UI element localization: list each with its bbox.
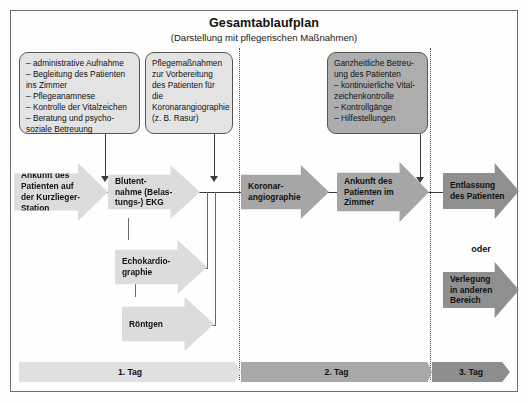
connector-blood-to-echo	[128, 218, 129, 240]
page-title: Gesamtablaufplan	[0, 16, 528, 30]
connector-note2-down	[214, 134, 215, 177]
branch-line-xray	[215, 192, 216, 326]
step-coronary-angiography-label: Koronar- angiographie	[241, 181, 303, 203]
branch-line-echo	[207, 192, 208, 269]
phase-divider-1	[239, 48, 240, 380]
connector-note1-down	[105, 134, 106, 177]
diagram-canvas: Gesamtablaufplan (Darstellung mit pflege…	[0, 0, 528, 403]
connector-note3-down	[420, 134, 421, 178]
step-transfer-label: Verlegung in anderen Bereich	[443, 274, 494, 307]
timeline-day-1-label: 1. Tag	[118, 367, 142, 377]
step-echocardiography-label: Echokardio- graphie	[115, 256, 172, 278]
note-holistic-care: Ganzheitliche Betreu- ung des Patienten …	[327, 52, 428, 134]
timeline-day-2-label: 2. Tag	[324, 367, 348, 377]
arrowhead-note2	[210, 176, 218, 182]
step-arrival-room-label: Ankunft des Patienten im Zimmer	[337, 176, 396, 209]
timeline-day-2: 2. Tag	[241, 362, 432, 382]
timeline-day-3-label: 3. Tag	[459, 367, 483, 377]
step-bloodtest-ekg-label: Blutent- nahme (Belas- tungs-) EKG	[108, 176, 174, 209]
note-admission-care: – administrative Aufnahme – Begleitung d…	[19, 52, 140, 134]
note-preparation: Pflegemaßnahmen zur Vorbereitung des Pat…	[145, 52, 233, 134]
step-discharge-label: Entlassung des Patienten	[443, 180, 506, 202]
timeline-day-1: 1. Tag	[19, 362, 241, 382]
arrowhead-note1	[101, 176, 109, 182]
timeline-day-3: 3. Tag	[432, 362, 510, 382]
step-xray-label: Röntgen	[122, 319, 165, 330]
phase-divider-2	[430, 48, 431, 380]
page-subtitle: (Darstellung mit pflegerischen Maßnahmen…	[0, 32, 528, 43]
or-label: oder	[443, 244, 519, 254]
step-arrival-label: Ankunft des Patienten auf der Kurzlieger…	[14, 170, 82, 214]
